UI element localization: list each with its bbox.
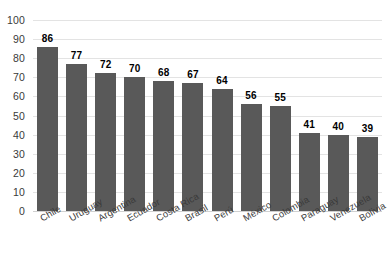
bar-value-label: 72 xyxy=(100,59,112,70)
bar-chart: 1009080706050403020100 86777270686764565… xyxy=(0,0,389,263)
bar[interactable] xyxy=(241,104,262,211)
x-axis: ChileUruguayArgentinaEcuadorCosta RicaBr… xyxy=(33,211,382,263)
bar-value-label: 77 xyxy=(71,50,83,61)
bars-layer: 867772706867645655414039 xyxy=(33,20,382,211)
y-axis-tick-label: 100 xyxy=(7,14,25,26)
y-axis-tick-label: 20 xyxy=(13,167,25,179)
y-axis-tick-label: 70 xyxy=(13,71,25,83)
bar-value-label: 70 xyxy=(129,63,141,74)
y-axis-tick-label: 90 xyxy=(13,33,25,45)
bar[interactable] xyxy=(124,77,145,211)
bar-value-label: 55 xyxy=(274,92,286,103)
bar[interactable] xyxy=(37,47,58,211)
bar[interactable] xyxy=(66,64,87,211)
y-axis-tick-label: 10 xyxy=(13,186,25,198)
bar[interactable] xyxy=(95,73,116,211)
y-axis-tick-label: 60 xyxy=(13,90,25,102)
bar-value-label: 64 xyxy=(216,75,228,86)
bar[interactable] xyxy=(212,89,233,211)
y-axis-tick-label: 50 xyxy=(13,110,25,122)
y-axis-tick-label: 0 xyxy=(19,205,25,217)
bar[interactable] xyxy=(153,81,174,211)
y-axis-tick-label: 30 xyxy=(13,148,25,160)
bar-value-label: 39 xyxy=(362,123,374,134)
y-axis: 1009080706050403020100 xyxy=(0,20,29,211)
bar-value-label: 41 xyxy=(304,119,316,130)
bar-value-label: 68 xyxy=(158,67,170,78)
bar[interactable] xyxy=(270,106,291,211)
bar-value-label: 56 xyxy=(245,90,257,101)
bar-value-label: 86 xyxy=(42,33,54,44)
bar-value-label: 40 xyxy=(333,121,345,132)
y-axis-tick-label: 40 xyxy=(13,129,25,141)
bar-value-label: 67 xyxy=(187,69,199,80)
y-axis-tick-label: 80 xyxy=(13,52,25,64)
